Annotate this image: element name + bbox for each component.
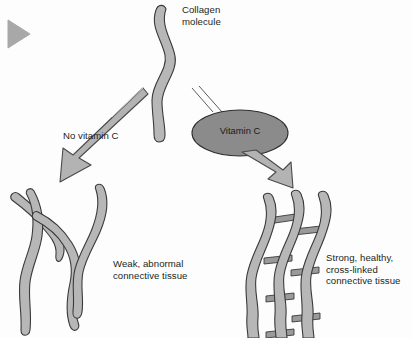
- strong-fiber-1: [246, 193, 276, 338]
- collagen-molecule-fiber: [152, 5, 175, 142]
- weak-fiber-d: [73, 184, 107, 318]
- vitamin-c-leader-line-2: [199, 86, 222, 112]
- collagen-molecule-label: Collagen molecule: [182, 4, 221, 27]
- play-triangle-marker: [8, 20, 30, 48]
- strong-connective-tissue-label: Strong, healthy, cross-linked connective…: [326, 252, 400, 287]
- vitamin-c-arrow: [242, 150, 293, 188]
- strong-connective-tissue-group: [246, 190, 331, 338]
- diagram-canvas: [0, 0, 412, 338]
- vitamin-c-leader-line-1: [192, 88, 213, 112]
- no-vitamin-c-label: No vitamin C: [63, 130, 119, 142]
- vitamin-c-label: Vitamin C: [204, 125, 276, 136]
- collagen-vitamin-c-diagram: Collagen molecule No vitamin C Vitamin C…: [0, 0, 412, 338]
- weak-connective-tissue-group: [11, 184, 107, 335]
- weak-connective-tissue-label: Weak, abnormal connective tissue: [113, 258, 187, 281]
